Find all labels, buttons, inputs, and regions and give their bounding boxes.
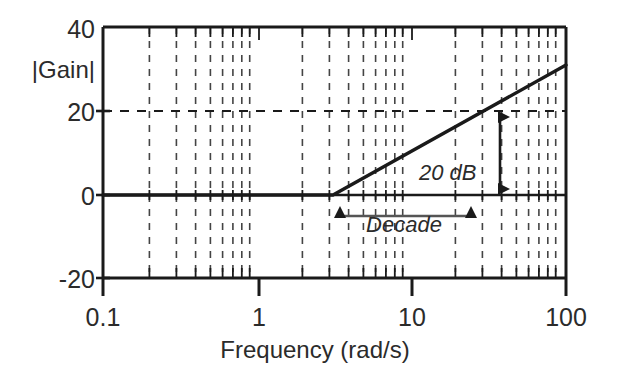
x-tick-label-10: 10 [398, 303, 426, 331]
y-tick-label-0: 0 [81, 182, 95, 210]
plot-svg: 40 20 0 -20 |Gain| 0.1 1 10 100 Frequenc… [0, 0, 622, 372]
x-axis-title: Frequency (rad/s) [220, 336, 409, 363]
x-tick-label-0point1: 0.1 [86, 303, 121, 331]
y-axis-title: |Gain| [32, 56, 95, 83]
y-tick-label-minus-20: -20 [59, 265, 95, 293]
bode-plot-figure: 40 20 0 -20 |Gain| 0.1 1 10 100 Frequenc… [0, 0, 622, 372]
annotation-label-20db: 20 dB [418, 160, 477, 185]
annotation-label-decade: Decade [366, 212, 442, 237]
y-tick-label-40: 40 [67, 15, 95, 43]
x-tick-label-1: 1 [252, 303, 266, 331]
x-tick-label-100: 100 [545, 303, 587, 331]
y-tick-label-20: 20 [67, 98, 95, 126]
